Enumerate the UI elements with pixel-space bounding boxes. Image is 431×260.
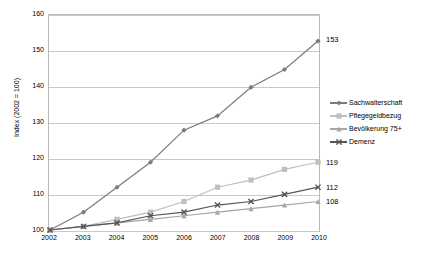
legend-item-demenz[interactable]: Demenz xyxy=(330,135,431,148)
x-tick-label: 2007 xyxy=(210,234,226,241)
gridline xyxy=(49,231,319,232)
x-tick-label: 2004 xyxy=(109,234,125,241)
legend-item-pflegegeldbezug[interactable]: Pflegegeldbezug xyxy=(330,109,431,122)
plot-area xyxy=(48,14,320,232)
y-tick-label: 110 xyxy=(4,190,44,197)
legend-marker-icon xyxy=(330,98,347,107)
legend-item-bev-lkerung-75-[interactable]: Bevölkerung 75+ xyxy=(330,122,431,135)
chart-legend: SachwalterschaftPflegegeldbezugBevölkeru… xyxy=(330,96,431,148)
series-pflegegeldbezug xyxy=(47,160,320,233)
series-end-label: 119 xyxy=(326,158,338,167)
legend-item-label: Pflegegeldbezug xyxy=(349,112,401,119)
y-tick-label: 130 xyxy=(4,118,44,125)
legend-marker-icon xyxy=(330,137,347,146)
x-tick-label: 2008 xyxy=(244,234,260,241)
y-tick-label: 150 xyxy=(4,46,44,53)
x-tick-label: 2005 xyxy=(142,234,158,241)
y-tick-label: 140 xyxy=(4,82,44,89)
y-tick-label: 160 xyxy=(4,10,44,17)
chart-container: Index (2002 = 100) 100110120130140150160… xyxy=(0,0,431,260)
legend-item-label: Demenz xyxy=(349,138,375,145)
legend-item-label: Sachwalterschaft xyxy=(349,99,402,106)
legend-item-sachwalterschaft[interactable]: Sachwalterschaft xyxy=(330,96,431,109)
y-axis-ticks: 100110120130140150160 xyxy=(0,14,44,232)
y-tick-label: 100 xyxy=(4,226,44,233)
series-end-label: 108 xyxy=(326,197,339,206)
legend-marker-icon xyxy=(330,124,347,133)
x-tick-label: 2010 xyxy=(311,234,327,241)
x-tick-label: 2006 xyxy=(176,234,192,241)
series-end-label: 112 xyxy=(326,183,338,192)
x-tick-label: 2003 xyxy=(75,234,91,241)
legend-item-label: Bevölkerung 75+ xyxy=(349,125,402,132)
x-tick-label: 2002 xyxy=(41,234,57,241)
y-tick-label: 120 xyxy=(4,154,44,161)
x-axis-ticks: 200220032004200520062007200820092010 xyxy=(48,234,320,248)
legend-marker-icon xyxy=(330,111,347,120)
x-tick-label: 2009 xyxy=(277,234,293,241)
series-end-label: 153 xyxy=(326,35,339,44)
series-layer xyxy=(49,15,319,231)
